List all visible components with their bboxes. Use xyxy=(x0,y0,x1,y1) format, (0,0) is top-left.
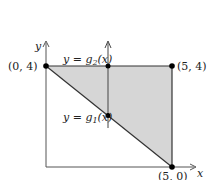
label-g2: y = g2(x) xyxy=(62,53,112,67)
label-point-5-0: (5, 0) xyxy=(158,170,188,180)
region-diagram: y x (0, 4) (5, 4) (5, 0) y = g2(x) y = g… xyxy=(0,0,214,180)
point-5-4 xyxy=(169,63,175,69)
point-0-4 xyxy=(43,63,49,69)
label-point-0-4: (0, 4) xyxy=(8,60,38,73)
x-axis-label: x xyxy=(197,167,204,180)
point-5-0 xyxy=(169,164,175,170)
y-axis-label: y xyxy=(34,40,42,53)
label-point-5-4: (5, 4) xyxy=(177,60,207,73)
label-g1: y = g1(x) xyxy=(62,111,112,125)
